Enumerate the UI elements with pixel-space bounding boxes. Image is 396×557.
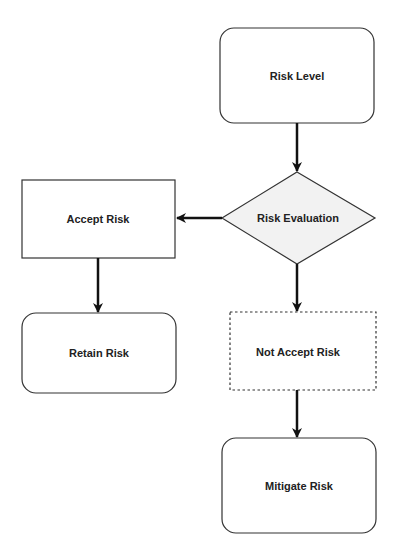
node-risk-evaluation: Risk Evaluation xyxy=(222,172,375,264)
node-retain-risk: Retain Risk xyxy=(22,313,176,393)
node-not-accept-risk: Not Accept Risk xyxy=(230,312,376,390)
node-risk-level: Risk Level xyxy=(220,28,374,123)
node-accept-risk-label: Accept Risk xyxy=(67,213,131,225)
node-risk-evaluation-label: Risk Evaluation xyxy=(257,212,339,224)
node-mitigate-risk: Mitigate Risk xyxy=(222,438,376,533)
node-accept-risk: Accept Risk xyxy=(22,180,175,258)
node-risk-level-label: Risk Level xyxy=(270,70,324,82)
flowchart: Risk Level Risk Evaluation Accept Risk R… xyxy=(0,0,396,557)
node-not-accept-risk-label: Not Accept Risk xyxy=(256,346,341,358)
node-retain-risk-label: Retain Risk xyxy=(69,347,130,359)
node-mitigate-risk-label: Mitigate Risk xyxy=(265,480,334,492)
